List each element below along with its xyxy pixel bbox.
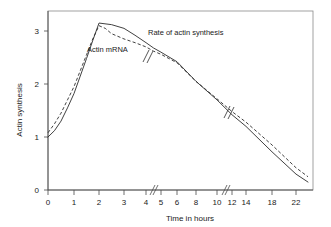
x-tick-label-12: 12 <box>228 198 237 207</box>
y-axis-ticks <box>44 31 48 190</box>
x-tick-label-1: 1 <box>72 198 77 207</box>
curve-break-mark-1 <box>143 50 153 63</box>
y-tick-label-1: 1 <box>35 133 40 142</box>
actin-synthesis-line-chart: 0 1 2 3 Actin synthesis <box>0 0 331 227</box>
x-tick-label-0: 0 <box>46 198 51 207</box>
x-axis-title: Time in hours <box>166 214 214 223</box>
x-tick-label-6: 6 <box>175 198 180 207</box>
annotation-actin-mrna: Actin mRNA <box>87 45 128 54</box>
chart-figure: 0 1 2 3 Actin synthesis <box>0 0 331 227</box>
x-tick-label-3: 3 <box>122 198 127 207</box>
x-tick-label-5: 5 <box>159 198 164 207</box>
annotation-rate-of-actin-synthesis: Rate of actin synthesis <box>148 28 224 37</box>
x-tick-label-22: 22 <box>292 198 301 207</box>
x-tick-label-4: 4 <box>144 198 149 207</box>
x-axis-ticks <box>48 190 296 195</box>
x-tick-label-14: 14 <box>242 198 251 207</box>
y-tick-label-2: 2 <box>35 80 40 89</box>
x-tick-label-10: 10 <box>213 198 222 207</box>
plot-border <box>48 11 313 190</box>
y-tick-label-3: 3 <box>35 27 40 36</box>
x-tick-label-18: 18 <box>268 198 277 207</box>
y-axis-title: Actin synthesis <box>15 83 24 136</box>
x-tick-label-2: 2 <box>97 198 102 207</box>
x-tick-label-8: 8 <box>194 198 199 207</box>
y-tick-label-0: 0 <box>35 186 40 195</box>
